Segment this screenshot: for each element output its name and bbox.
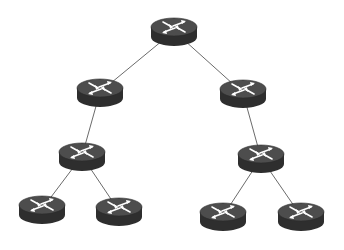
router-icon-l2-left [59, 143, 105, 171]
router-icon-root [151, 18, 197, 46]
router-icon-leaf-4 [278, 203, 324, 231]
nodes-layer [19, 18, 324, 231]
router-icon-leaf-3 [200, 203, 246, 231]
router-icon-l1-left [77, 79, 123, 107]
links-layer [42, 31, 301, 216]
network-diagram [0, 0, 344, 250]
router-icon-l1-right [220, 80, 266, 108]
router-icon-leaf-2 [96, 198, 142, 226]
router-icon-leaf-1 [19, 196, 65, 224]
router-icon-l2-right [238, 145, 284, 173]
